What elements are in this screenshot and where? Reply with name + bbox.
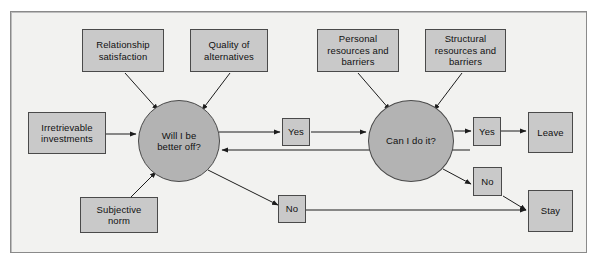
node-quality-of-alternatives-label: Quality of alternatives <box>202 39 256 62</box>
node-can-i-do-it-label: Can I do it? <box>384 135 438 147</box>
node-relationship-satisfaction[interactable]: Relationship satisfaction <box>82 29 164 72</box>
node-stay-label: Stay <box>539 205 562 217</box>
node-leave-label: Leave <box>535 127 565 139</box>
node-leave[interactable]: Leave <box>528 112 573 153</box>
node-subjective-norm[interactable]: Subjective norm <box>80 197 158 233</box>
node-stay[interactable]: Stay <box>528 190 573 232</box>
node-yes-left-label: Yes <box>286 126 306 138</box>
node-no-left[interactable]: No <box>278 195 306 223</box>
node-yes-right[interactable]: Yes <box>473 117 501 146</box>
node-can-i-do-it[interactable]: Can I do it? <box>368 100 454 182</box>
node-no-left-label: No <box>284 203 300 215</box>
node-no-right-label: No <box>479 176 495 188</box>
node-relationship-satisfaction-label: Relationship satisfaction <box>94 39 151 62</box>
node-personal-resources[interactable]: Personal resources and barriers <box>317 29 399 72</box>
node-yes-left[interactable]: Yes <box>282 118 310 146</box>
diagram-canvas: Relationship satisfaction Quality of alt… <box>0 0 597 264</box>
node-will-i-be-better-off-label: Will I be better off? <box>155 130 203 153</box>
node-will-i-be-better-off[interactable]: Will I be better off? <box>138 100 220 182</box>
node-quality-of-alternatives[interactable]: Quality of alternatives <box>190 29 268 72</box>
node-irretrievable-investments-label: Irretrievable investments <box>39 122 95 145</box>
node-personal-resources-label: Personal resources and barriers <box>325 33 391 68</box>
node-yes-right-label: Yes <box>477 126 497 138</box>
node-structural-resources[interactable]: Structural resources and barriers <box>425 29 506 72</box>
node-no-right[interactable]: No <box>473 167 502 196</box>
node-structural-resources-label: Structural resources and barriers <box>433 33 499 68</box>
node-irretrievable-investments[interactable]: Irretrievable investments <box>28 112 106 154</box>
node-subjective-norm-label: Subjective norm <box>95 204 144 227</box>
